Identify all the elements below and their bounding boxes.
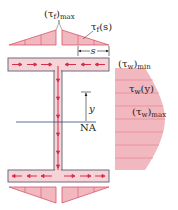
tau-f-s-label: τf(s) [91,21,112,34]
i-beam-shear-diagram: (τf)max τf(s) s (τw)min τw(y) (τw)max y … [0,0,178,210]
tau-f-s-leader-icon [83,31,93,39]
s-label: s [91,45,96,56]
max-pointer-icon [56,20,62,30]
neutral-axis-label: NA [80,122,97,133]
y-label: y [88,103,95,114]
tau-f-max-label: (τf)max [44,8,75,21]
bottom-flange-stress-distribution [9,187,109,203]
